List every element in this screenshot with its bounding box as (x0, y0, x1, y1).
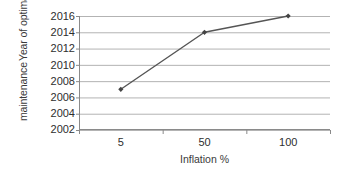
y-tick-label: 2004 (51, 108, 75, 119)
x-axis-tick-labels: 5 50 100 (79, 136, 330, 152)
y-tick-label: 2012 (51, 43, 75, 54)
y-axis-title-line-2: Year of optimal (17, 0, 29, 61)
line-chart: maintenance Year of optimal 2016 2014 20… (0, 0, 345, 173)
y-tick-label: 2016 (51, 11, 75, 22)
data-series (118, 13, 291, 91)
y-tick-label: 2006 (51, 92, 75, 103)
y-tick-label: 2014 (51, 27, 75, 38)
x-axis-title: Inflation % (79, 153, 330, 165)
x-tick-label: 100 (279, 136, 297, 148)
data-point-marker (286, 13, 291, 18)
plot-area (79, 16, 330, 130)
plot-svg (79, 16, 330, 130)
series-line (121, 16, 288, 89)
y-axis-title-line-1: maintenance (17, 62, 29, 121)
y-tick-label: 2010 (51, 60, 75, 71)
y-axis-title: maintenance Year of optimal (8, 2, 38, 112)
series-markers (118, 13, 291, 91)
y-tick-label: 2008 (51, 76, 75, 87)
y-tick-label: 2002 (51, 124, 75, 135)
x-tick-label: 50 (198, 136, 210, 148)
x-tick-label: 5 (118, 136, 124, 148)
y-axis-tick-labels: 2016 2014 2012 2010 2008 2006 2004 2002 (36, 0, 78, 173)
